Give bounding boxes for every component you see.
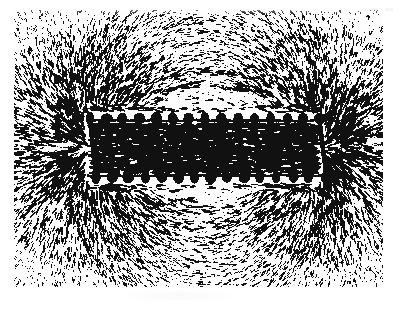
photograph: [14, 10, 383, 287]
iron-filings-field-image: [14, 10, 383, 287]
page-smudge: [118, 290, 238, 302]
page-corner-mark: [370, 1, 396, 10]
figure-root: Iron filings pattern revealing the magne…: [0, 0, 402, 310]
